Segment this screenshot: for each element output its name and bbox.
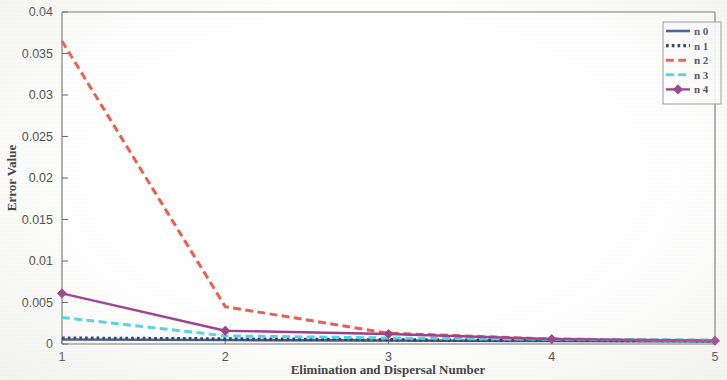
x-tick-label: 2 [222,350,229,364]
chart-figure: 00.0050.010.0150.020.0250.030.0350.04 12… [0,0,727,380]
y-tick-label: 0 [46,337,53,351]
legend-label-3: n 3 [694,69,709,81]
y-axis-title: Error Value [4,145,19,212]
legend-label-2: n 2 [694,54,709,66]
y-tick-label: 0.005 [22,296,53,310]
chart-legend: n 0n 1n 2n 3n 4 [663,22,721,104]
legend-label-1: n 1 [694,40,708,52]
legend-label-0: n 0 [694,25,709,37]
y-tick-label: 0.01 [29,254,53,268]
y-tick-label: 0.025 [22,130,53,144]
y-tick-label: 0.015 [22,213,53,227]
x-tick-label: 5 [712,350,719,364]
line-chart-plot: 00.0050.010.0150.020.0250.030.0350.04 12… [0,0,727,380]
y-tick-label: 0.035 [22,47,53,61]
y-tick-label: 0.03 [29,88,53,102]
legend-background [663,22,721,104]
x-tick-label: 4 [548,350,555,364]
plot-background [62,12,715,344]
legend-label-4: n 4 [694,83,709,95]
y-axis: 00.0050.010.0150.020.0250.030.0350.04 [22,5,68,351]
y-tick-label: 0.02 [29,171,53,185]
x-tick-label: 1 [59,350,66,364]
x-axis-title: Elimination and Dispersal Number [291,362,486,377]
y-tick-label: 0.04 [29,5,53,19]
